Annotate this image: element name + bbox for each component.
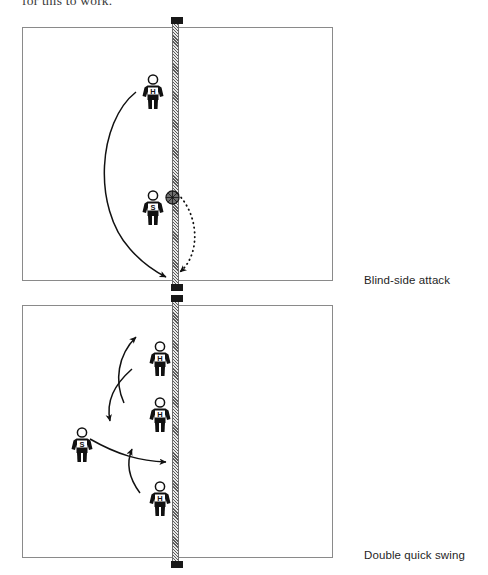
running-body-text: for this to work. (22, 0, 112, 9)
player-role-label: H (157, 354, 162, 363)
volleyball-icon (165, 190, 180, 205)
player-role-label: H (150, 87, 155, 96)
net-post-bottom (171, 284, 183, 291)
net-post-bottom (171, 561, 183, 568)
player-hitter-front: H (146, 341, 174, 377)
net-post-top (171, 17, 183, 24)
player-role-label: H (157, 494, 162, 503)
figure-caption-double-quick-swing: Double quick swing (364, 549, 465, 561)
player-hitter-low: H (146, 481, 174, 517)
figure-double-quick-swing: H H S H (0, 305, 488, 558)
player-hitter-back: H (146, 397, 174, 433)
net-post-top (171, 295, 183, 302)
player-setter: S (139, 190, 167, 226)
player-setter: S (68, 427, 96, 463)
player-role-label: S (79, 440, 84, 449)
player-hitter: H (139, 74, 167, 110)
figure-caption-blind-side-attack: Blind-side attack (364, 274, 450, 286)
player-role-label: S (150, 203, 155, 212)
player-role-label: H (157, 410, 162, 419)
net (172, 23, 179, 285)
figure-blind-side-attack: H S (0, 27, 488, 282)
